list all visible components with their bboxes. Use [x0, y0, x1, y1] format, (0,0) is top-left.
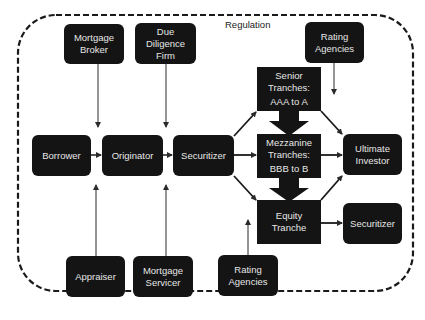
- arrow-senior-investor: [321, 111, 342, 134]
- node-label: Diligence: [146, 38, 185, 50]
- node-label: Securitizer: [350, 218, 395, 230]
- node-label: Servicer: [146, 277, 181, 289]
- node-label: Mortgage: [74, 32, 114, 44]
- node-label: Mezzanine: [266, 137, 312, 149]
- node-mezzanine-tranches[interactable]: Mezzanine Tranches: BBB to B: [257, 134, 321, 178]
- node-label: Tranches:: [268, 82, 310, 94]
- node-rating-agencies-bottom[interactable]: Rating Agencies: [218, 255, 278, 296]
- node-equity-tranche[interactable]: Equity Tranche: [257, 200, 321, 244]
- node-appraiser[interactable]: Appraiser: [66, 256, 125, 297]
- node-label: Appraiser: [75, 271, 116, 283]
- node-securitizer[interactable]: Securitizer: [173, 135, 234, 176]
- node-label: Rating: [234, 264, 261, 276]
- node-label: Borrower: [42, 150, 81, 162]
- node-mortgage-broker[interactable]: Mortgage Broker: [64, 24, 124, 64]
- node-label: Mortgage: [143, 265, 183, 277]
- block-arrow-mezzanine-equity: [269, 178, 309, 202]
- node-label: AAA to A: [270, 96, 308, 108]
- node-securitizer-right[interactable]: Securitizer: [343, 203, 402, 244]
- node-label: Senior: [275, 70, 302, 82]
- node-label: BBB to B: [270, 163, 309, 175]
- node-mortgage-servicer[interactable]: Mortgage Servicer: [133, 256, 193, 297]
- node-label: Tranches:: [268, 149, 310, 161]
- node-label: Securitizer: [181, 150, 226, 162]
- arrow-securitizer-equity: [234, 176, 256, 200]
- node-label: Investor: [356, 155, 390, 167]
- node-label: Due: [157, 26, 174, 38]
- mbs-flow-diagram: Regulation Mortgage Broker Due Diligence…: [0, 0, 425, 320]
- node-due-diligence-firm[interactable]: Due Diligence Firm: [135, 23, 196, 64]
- node-label: Ultimate: [355, 143, 390, 155]
- node-label: Broker: [80, 44, 108, 56]
- node-borrower[interactable]: Borrower: [32, 135, 91, 176]
- node-label: Firm: [156, 50, 175, 62]
- node-label: Equity: [276, 210, 302, 222]
- node-ultimate-investor[interactable]: Ultimate Investor: [343, 134, 402, 175]
- node-label: Agencies: [315, 43, 354, 55]
- block-arrow-senior-mezzanine: [269, 111, 309, 136]
- node-label: Rating: [321, 31, 348, 43]
- node-label: Tranche: [272, 222, 307, 234]
- arrow-equity-investor: [321, 176, 342, 200]
- node-label: Originator: [112, 150, 154, 162]
- arrow-securitizer-senior: [234, 112, 256, 136]
- node-label: Agencies: [228, 276, 267, 288]
- regulation-label: Regulation: [225, 19, 270, 30]
- node-originator[interactable]: Originator: [102, 135, 163, 176]
- node-rating-agencies-top[interactable]: Rating Agencies: [305, 22, 364, 63]
- node-senior-tranches[interactable]: Senior Tranches: AAA to A: [257, 67, 321, 111]
